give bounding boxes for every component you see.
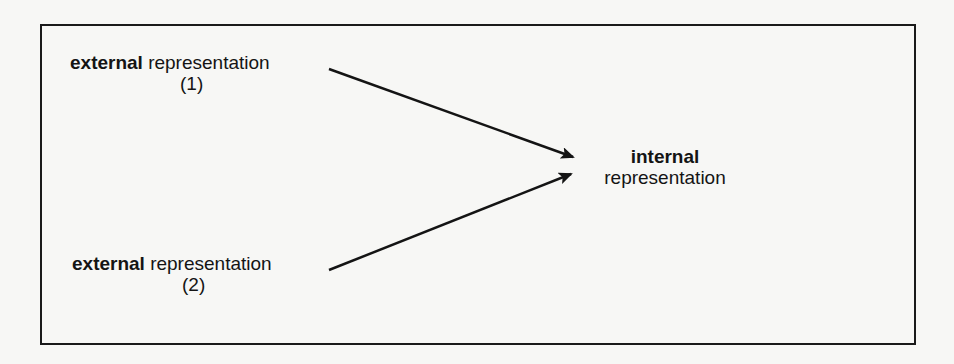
node-external-1-text: representation [148, 52, 269, 73]
node-internal-text: representation [590, 167, 740, 188]
node-internal-bold: internal [631, 146, 700, 167]
node-external-2-text: representation [150, 253, 271, 274]
node-external-1-index: (1) [180, 73, 203, 94]
node-external-2: external representation [72, 253, 272, 274]
node-external-1-bold: external [70, 52, 143, 73]
node-external-2-index: (2) [182, 274, 205, 295]
node-external-2-bold: external [72, 253, 145, 274]
arrow-ext1-to-internal [329, 69, 573, 157]
arrow-ext2-to-internal [329, 174, 571, 270]
node-external-1: external representation [70, 52, 270, 73]
node-internal: internal representation [590, 146, 740, 188]
